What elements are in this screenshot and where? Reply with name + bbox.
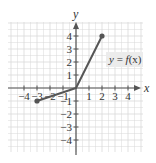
x-tick-label: 4 — [125, 90, 131, 102]
function-graph: x y −4−3−2−112344321−1−2−3−4 y = f(x) — [0, 0, 156, 163]
x-tick-label: 1 — [86, 90, 92, 102]
y-tick-label: 1 — [67, 69, 73, 81]
x-axis-arrow-icon — [134, 85, 141, 91]
y-tick-label: −4 — [60, 134, 72, 146]
y-tick-label: −2 — [60, 108, 72, 120]
y-tick-label: 3 — [67, 43, 73, 55]
y-tick-label: −3 — [60, 121, 72, 133]
y-axis-label: y — [72, 7, 79, 21]
endpoint-dot — [99, 33, 104, 38]
endpoint-dot — [34, 98, 39, 103]
x-tick-label: −4 — [18, 90, 30, 102]
y-tick-label: −1 — [60, 95, 72, 107]
function-label: y = f(x) — [108, 53, 142, 66]
x-axis-label: x — [143, 81, 150, 95]
x-tick-label: 3 — [112, 90, 118, 102]
y-tick-label: 2 — [67, 56, 73, 68]
function-label-box: y = f(x) — [106, 52, 143, 67]
x-tick-label: 2 — [99, 90, 105, 102]
y-tick-label: 4 — [67, 30, 73, 42]
